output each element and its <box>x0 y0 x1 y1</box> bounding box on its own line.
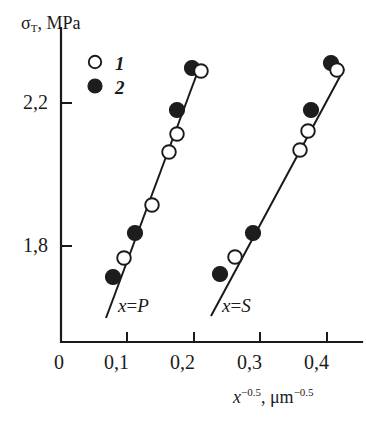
x-axis-exponent: −0.5 <box>241 386 261 398</box>
data-point-filled <box>304 103 319 118</box>
annotation-p-value: P <box>137 295 149 316</box>
x-tick-label-0.4: 0,4 <box>304 352 329 372</box>
y-tick-label-2.2: 2,2 <box>23 92 48 112</box>
annotation-s-equals: = <box>230 295 241 316</box>
y-tick-label-1.8: 1,8 <box>23 235 48 255</box>
x-tick-label-0.3: 0,3 <box>237 352 262 372</box>
data-point-open <box>117 251 131 265</box>
y-axis-unit: , MPa <box>37 13 80 33</box>
x-axis-unit-exponent: −0.5 <box>294 386 314 398</box>
annotation-p-equals: = <box>126 295 137 316</box>
data-point-open <box>162 145 176 159</box>
data-point-filled <box>246 226 261 241</box>
x-tick-label-0: 0 <box>54 352 64 372</box>
legend-label-1: 1 <box>115 54 125 73</box>
data-point-open <box>228 250 242 264</box>
x-axis-variable: x <box>233 387 241 407</box>
data-point-open <box>301 124 315 138</box>
y-axis-symbol: σ <box>21 13 31 33</box>
data-point-filled <box>170 103 185 118</box>
x-axis-title: x−0.5, μm−0.5 <box>233 387 314 406</box>
data-point-open <box>293 143 307 157</box>
data-point-open <box>194 64 208 78</box>
data-point-filled <box>128 226 143 241</box>
data-point-open <box>170 127 184 141</box>
annotation-s-value: S <box>241 295 251 316</box>
chart-figure: σT, MPa 2,2 1,8 0 0,1 0,2 0,3 0,4 x−0.5,… <box>0 0 366 429</box>
data-point-open <box>330 63 344 77</box>
x-axis-unit: , μm <box>261 387 294 407</box>
data-point-filled <box>106 270 121 285</box>
y-axis-title: σT, MPa <box>21 14 80 34</box>
annotation-x-equals-p: x=P <box>118 296 149 315</box>
legend-label-2: 2 <box>115 78 125 97</box>
fit-line-s <box>211 69 344 316</box>
data-point-filled <box>213 267 228 282</box>
annotation-x-equals-s: x=S <box>222 296 251 315</box>
data-point-open <box>145 198 159 212</box>
x-tick-label-0.1: 0,1 <box>104 352 129 372</box>
axis-lines <box>61 28 362 342</box>
legend-marker-filled-circle <box>88 79 102 93</box>
x-tick-label-0.2: 0,2 <box>170 352 195 372</box>
legend-marker-open-circle <box>89 56 101 68</box>
